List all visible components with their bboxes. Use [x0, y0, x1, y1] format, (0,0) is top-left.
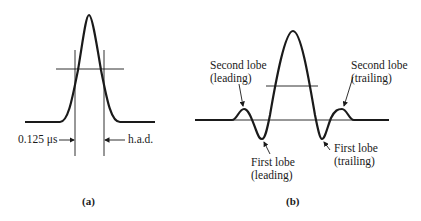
first-lobe-trailing-label: First lobe (trailing) — [334, 142, 378, 168]
figure-a-caption: (a) — [82, 195, 95, 207]
first-lobe-leading-label: First lobe (leading) — [251, 156, 295, 182]
label-line: (trailing) — [351, 72, 408, 85]
figure-b-pulse — [195, 31, 389, 139]
first-lobe-trailing-pointer-icon — [324, 142, 330, 150]
first-lobe-leading-pointer-icon — [264, 142, 270, 154]
pulse-diagram — [0, 0, 421, 221]
had-label: h.a.d. — [128, 133, 153, 146]
second-lobe-leading-label: Second lobe (leading) — [210, 59, 267, 85]
label-line: Second lobe — [210, 59, 267, 72]
second-lobe-leading-pointer-icon — [239, 84, 243, 106]
label-line: (leading) — [210, 72, 267, 85]
label-line: (trailing) — [334, 155, 378, 168]
figure-a-pulse — [25, 15, 155, 122]
pulse-width-label: 0.125 μs — [18, 133, 57, 146]
label-line: First lobe — [334, 142, 378, 155]
figure-b-caption: (b) — [286, 195, 299, 207]
second-lobe-trailing-label: Second lobe (trailing) — [351, 59, 408, 85]
label-line: Second lobe — [351, 59, 408, 72]
label-line: First lobe — [251, 156, 295, 169]
label-line: (leading) — [251, 169, 295, 182]
